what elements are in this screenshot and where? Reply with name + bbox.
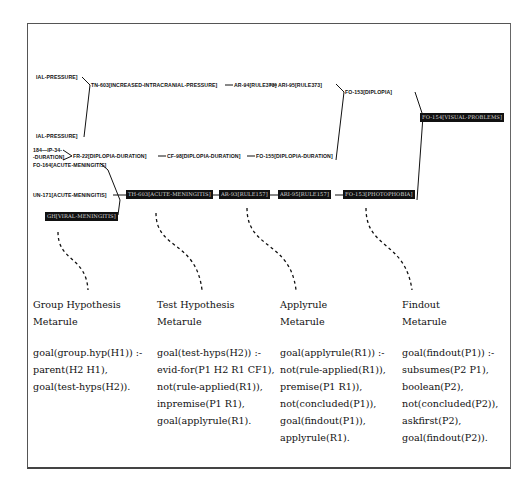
- node-184-ip-34: 184—IP-34-: [33, 147, 62, 154]
- bracket-black-right: [415, 92, 423, 200]
- metarule-findout: Findout Metarule goal(findout(P1)) :- su…: [402, 296, 498, 446]
- bracket-fo153: [336, 84, 344, 160]
- node-fr-22: FR-22[DIPLOPIA-DURATION]: [73, 153, 146, 160]
- rule-line: evid-for(P1 H2 R1 CF1),: [157, 361, 275, 378]
- dashed-link-findout: [366, 208, 412, 290]
- rule-line: applyrule(R1).: [280, 429, 386, 446]
- rule-line: goal(findout(P1)) :-: [402, 344, 498, 361]
- node-black-th: TH-603[ACUTE-MENINGITIS]: [126, 190, 213, 199]
- node-black-gh: GH[VIRAL-MENINGITIS]: [45, 212, 118, 221]
- rule-line: goal(findout(P1)),: [280, 412, 386, 429]
- metarule-test-hypothesis: Test Hypothesis Metarule goal(test-hyps(…: [157, 296, 275, 429]
- metarule-title: Test Hypothesis: [157, 296, 275, 313]
- metarule-title: Findout: [402, 296, 498, 313]
- rule-line: premise(P1 R1)),: [280, 378, 386, 395]
- node-duration: -DURATION]: [33, 154, 64, 161]
- node-black-fo: FO-153[PHOTOPHOBIA]: [343, 190, 415, 199]
- metarule-applyrule: Applyrule Metarule goal(applyrule(R1)) :…: [280, 296, 386, 446]
- rule-line: not(concluded(P1)),: [280, 395, 386, 412]
- node-ari-95: ARI-95[RULE373]: [278, 82, 322, 89]
- dashed-link-applyrule: [247, 208, 296, 290]
- metarule-group-hypothesis: Group Hypothesis Metarule goal(group.hyp…: [33, 296, 142, 395]
- rule-line: goal(group.hyp(H1)) :-: [33, 344, 142, 361]
- node-ial-pressure-2: IAL-PRESSURE]: [36, 133, 78, 140]
- node-fo-164: FO-164[ACUTE-MENINGITIS]: [33, 162, 106, 169]
- rule-line: inpremise(P1 R1),: [157, 395, 275, 412]
- node-ial-pressure-1: IAL-PRESSURE]: [36, 74, 78, 81]
- node-tn-603: TN-603[INCREASED-INTRACRANIAL-PRESSURE]: [91, 82, 217, 89]
- rule-line: goal(applyrule(R1)) :-: [280, 344, 386, 361]
- node-black-ari: ARI-95[RULE157]: [278, 190, 331, 199]
- rule-line: not(concluded(P2)),: [402, 395, 498, 412]
- node-fo-153: FO-153[DIPLOPIA]: [345, 89, 392, 96]
- rule-line: not(rule-applied(R1)),: [280, 361, 386, 378]
- metarule-title: Metarule: [157, 313, 275, 330]
- rule-line: boolean(P2),: [402, 378, 498, 395]
- node-un-171: UN-171[ACUTE-MENINGITIS]: [33, 192, 107, 199]
- node-ar-94: AR-94[RULE373]: [234, 82, 277, 89]
- dashed-link-test: [156, 213, 202, 290]
- metarule-title: Metarule: [402, 313, 498, 330]
- rule-line: goal(findout(P2)).: [402, 429, 498, 446]
- rule-line: subsumes(P2 P1),: [402, 361, 498, 378]
- rule-line: not(rule-applied(R1)),: [157, 378, 275, 395]
- dashed-link-group: [58, 232, 88, 290]
- rule-line: goal(applyrule(R1).: [157, 412, 275, 429]
- rule-line: goal(test-hyps(H2)) :-: [157, 344, 275, 361]
- rule-line: askfirst(P2),: [402, 412, 498, 429]
- rule-line: goal(test-hyps(H2)).: [33, 378, 142, 395]
- node-black-ar: AR-93[RULE157]: [219, 190, 270, 199]
- node-cf-98: CF-98[DIPLOPIA-DURATION]: [167, 153, 240, 160]
- node-black-visual-problems: FO-154[VISUAL-PROBLEMS]: [420, 113, 504, 122]
- metarule-title: Applyrule: [280, 296, 386, 313]
- metarule-title: Group Hypothesis: [33, 296, 142, 313]
- node-fo-155: FO-155[DIPLOPIA-DURATION]: [256, 153, 333, 160]
- bracket-tn603: [82, 77, 90, 137]
- metarule-title: Metarule: [280, 313, 386, 330]
- rule-line: parent(H2 H1),: [33, 361, 142, 378]
- metarule-title: Metarule: [33, 313, 142, 330]
